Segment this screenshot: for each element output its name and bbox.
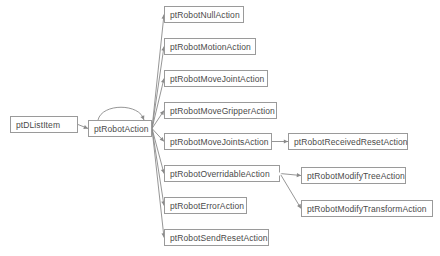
edge-ptRobotAction-to-ptRobotOverridableAction: [152, 129, 165, 174]
edge-path: [152, 47, 164, 129]
edge-path: [152, 111, 164, 129]
edge-ptRobotAction-to-ptRobotMoveGripperAction: [152, 111, 164, 129]
node-label: ptRobotSendResetAction: [170, 230, 268, 246]
edge-path: [78, 125, 88, 129]
edge-ptRobotOverridableAction-to-ptRobotModifyTransformAction: [280, 174, 301, 209]
edge-path: [152, 129, 164, 174]
node-ptRobotReceivedResetAction[interactable]: ptRobotReceivedResetAction: [288, 133, 408, 150]
edge-path: [152, 129, 164, 238]
node-ptRobotMoveJointsAction[interactable]: ptRobotMoveJointsAction: [164, 133, 272, 150]
expand-triangle-icon[interactable]: [277, 171, 282, 177]
node-label: ptRobotMoveJointAction: [170, 71, 264, 87]
expand-triangle-icon[interactable]: [67, 122, 72, 128]
node-label: ptRobotReceivedResetAction: [294, 134, 408, 150]
node-label: ptRobotModifyTreeAction: [307, 168, 405, 184]
node-label: ptDListItem: [16, 117, 60, 133]
node-label: ptRobotMoveGripperAction: [170, 103, 275, 119]
edge-ptDListItem-to-ptRobotAction: [78, 125, 88, 129]
node-label: ptRobotModifyTransformAction: [307, 201, 427, 217]
node-ptRobotOverridableAction[interactable]: ptRobotOverridableAction: [164, 165, 280, 182]
node-label: ptRobotMoveJointsAction: [170, 134, 269, 150]
edge-path: [152, 79, 164, 129]
node-ptRobotAction[interactable]: ptRobotAction: [88, 120, 152, 137]
node-ptRobotMotionAction[interactable]: ptRobotMotionAction: [164, 38, 256, 55]
edge-path: [152, 129, 164, 142]
edge-ptRobotMoveJointsAction-to-ptRobotReceivedResetAction: [272, 139, 288, 143]
node-label: ptRobotOverridableAction: [170, 166, 270, 182]
edge-path: [280, 174, 301, 176]
node-ptRobotModifyTransformAction[interactable]: ptRobotModifyTransformAction: [301, 200, 433, 217]
edge-ptRobotAction-to-ptRobotAction: [98, 107, 144, 120]
class-hierarchy-diagram: ptDListItemptRobotActionptRobotNullActio…: [0, 0, 440, 256]
edge-ptRobotAction-to-ptRobotMoveJointsAction: [152, 129, 164, 142]
node-ptRobotSendResetAction[interactable]: ptRobotSendResetAction: [164, 229, 269, 246]
node-ptRobotNullAction[interactable]: ptRobotNullAction: [164, 6, 244, 23]
edge-path: [152, 129, 164, 206]
node-ptDListItem[interactable]: ptDListItem: [10, 116, 78, 133]
node-ptRobotModifyTreeAction[interactable]: ptRobotModifyTreeAction: [301, 167, 406, 184]
edge-path: [98, 107, 144, 120]
edge-path: [152, 15, 164, 129]
node-ptRobotMoveGripperAction[interactable]: ptRobotMoveGripperAction: [164, 102, 277, 119]
node-ptRobotMoveJointAction[interactable]: ptRobotMoveJointAction: [164, 70, 268, 87]
node-ptRobotErrorAction[interactable]: ptRobotErrorAction: [164, 197, 247, 214]
node-label: ptRobotErrorAction: [170, 198, 244, 214]
node-label: ptRobotAction: [94, 121, 149, 137]
node-label: ptRobotNullAction: [170, 7, 240, 23]
edge-ptRobotOverridableAction-to-ptRobotModifyTreeAction: [280, 173, 301, 177]
edge-path: [280, 174, 301, 209]
node-label: ptRobotMotionAction: [170, 39, 251, 55]
